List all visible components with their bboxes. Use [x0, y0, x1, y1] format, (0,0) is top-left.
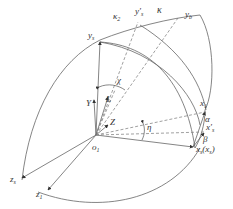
axis-zs [22, 135, 96, 178]
label-beta: β [202, 134, 208, 144]
label-L: L [105, 94, 111, 104]
dash-xs-prime [96, 132, 204, 135]
label-x1: x1 [199, 98, 207, 109]
dash-yb [96, 18, 178, 135]
label-origin: o1 [92, 142, 100, 153]
label-xs-xs: xs(xs) [195, 144, 215, 155]
label-chi: χ [116, 75, 122, 85]
axis-ys [96, 42, 100, 135]
arc-inner-1 [100, 42, 195, 148]
label-kappa: κ [157, 4, 162, 15]
label-z1: z1 [35, 189, 43, 200]
label-xs-prime: x′s [205, 122, 215, 133]
label-eta: η [147, 122, 152, 132]
frame-rotation-diagram: ys κ2 y′s κ yb χ Y L Z η o1 x1 α x′s β x… [0, 0, 233, 209]
arc-ys-prime [140, 25, 206, 110]
outer-arc-bottom [38, 148, 200, 202]
label-Y: Y [86, 98, 92, 108]
label-kappa2: κ2 [113, 11, 120, 22]
vector-Y [94, 100, 96, 135]
label-zs: zs [9, 174, 17, 185]
axis-xs [96, 135, 193, 147]
outer-arc-left [22, 40, 100, 180]
arc-inner-2 [100, 42, 200, 125]
label-ys-prime: y′s [134, 6, 144, 17]
label-Z: Z [110, 117, 116, 127]
axis-z1 [48, 135, 96, 190]
label-yb: yb [184, 9, 192, 20]
angle-chi-arc [99, 85, 125, 90]
label-ys: ys [87, 30, 95, 41]
diagram-svg: ys κ2 y′s κ yb χ Y L Z η o1 x1 α x′s β x… [0, 0, 233, 209]
